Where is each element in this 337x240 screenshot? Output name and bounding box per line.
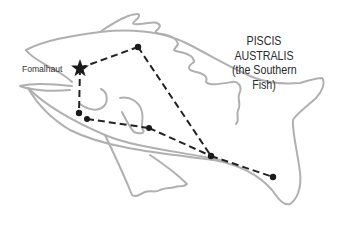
line-fomalhaut-s3: [79, 68, 80, 113]
title-line-4: Fish): [232, 78, 296, 93]
constellation-title: PISCIS AUSTRALIS (the Southern Fish): [232, 34, 296, 92]
fish-gill-cover: [80, 89, 107, 110]
star-dot-4: [84, 116, 90, 122]
star-dot-7: [270, 174, 276, 180]
star-dot-3: [76, 110, 82, 116]
star-dot-6: [208, 153, 214, 159]
line-s4-s5: [87, 119, 149, 128]
fomalhaut-label: Fomalhaut: [22, 63, 62, 74]
star-dot-2: [135, 44, 141, 50]
star-dot-5: [146, 125, 152, 131]
title-line-3: (the Southern: [232, 63, 296, 78]
title-line-1: PISCIS: [232, 34, 296, 49]
line-fomalhaut-s2: [80, 47, 138, 68]
fish-pelvic-fin: [105, 135, 187, 196]
fish-pectoral-fin: [120, 98, 144, 134]
title-line-2: AUSTRALIS: [232, 49, 296, 64]
